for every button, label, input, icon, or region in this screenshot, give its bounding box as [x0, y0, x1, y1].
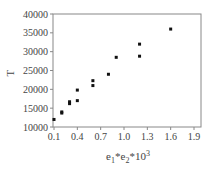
y-axis-title: T: [4, 69, 16, 76]
data-point-marker: [115, 56, 118, 59]
x-tick-label: 1.9: [188, 131, 201, 142]
data-point-marker: [60, 110, 63, 113]
y-tick-label: 40000: [23, 9, 48, 20]
x-tick-label: 0.7: [94, 131, 107, 142]
y-tick-label: 25000: [23, 65, 48, 76]
data-point-marker: [169, 28, 172, 31]
plot-area-border: [53, 14, 201, 127]
x-tick-label: 0.4: [71, 131, 84, 142]
x-axis-title: e1*e2*103: [106, 149, 150, 165]
x-tick-label: 1.0: [118, 131, 131, 142]
x-axis: 0.10.40.71.01.31.61.9: [48, 127, 201, 142]
y-tick-label: 20000: [23, 84, 48, 95]
y-axis: 10000150002000025000300003500040000: [23, 9, 53, 133]
data-point-marker: [76, 89, 79, 92]
data-point-marker: [138, 43, 141, 46]
scatter-chart: 10000150002000025000300003500040000 0.10…: [0, 0, 213, 170]
y-tick-label: 30000: [23, 46, 48, 57]
data-point-marker: [107, 73, 110, 76]
x-tick-label: 0.1: [48, 131, 61, 142]
data-point-marker: [91, 84, 94, 87]
data-point-marker: [76, 99, 79, 102]
y-tick-label: 10000: [23, 122, 48, 133]
x-tick-label: 1.3: [141, 131, 154, 142]
data-points: [53, 28, 173, 121]
y-tick-label: 35000: [23, 27, 48, 38]
x-tick-label: 1.6: [164, 131, 177, 142]
data-point-marker: [91, 79, 94, 82]
data-point-marker: [53, 118, 56, 121]
data-point-marker: [138, 55, 141, 58]
data-point-marker: [68, 100, 71, 103]
plot-frame: [53, 14, 201, 127]
y-tick-label: 15000: [23, 103, 48, 114]
